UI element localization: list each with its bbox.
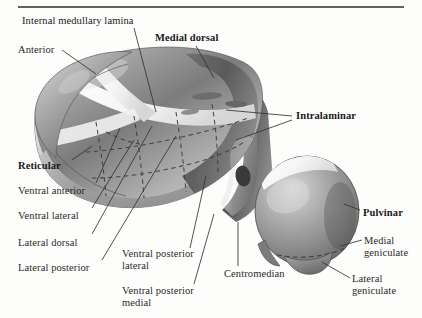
thalamus-figure: Internal medullary lamina Anterior Media… [0,0,422,318]
leader-ventral-posterior-medial [194,214,214,284]
label-lateral-dorsal: Lateral dorsal [18,237,77,249]
label-lateral-geniculate: Lateral geniculate [352,273,396,296]
label-reticular: Reticular [18,160,61,172]
label-anterior: Anterior [18,44,54,56]
label-ventral-posterior-lateral: Ventral posterior lateral [122,248,194,271]
label-ventral-posterior-medial: Ventral posterior medial [122,285,194,308]
label-intralaminar: Intralaminar [296,110,356,122]
leader-lateral-geniculate [322,262,350,278]
label-medial-dorsal: Medial dorsal [155,32,218,44]
label-internal-medullary-lamina: Internal medullary lamina [22,15,134,27]
label-pulvinar: Pulvinar [363,207,403,219]
label-centromedian: Centromedian [224,268,285,280]
label-medial-geniculate: Medial geniculate [364,235,408,258]
label-ventral-lateral: Ventral lateral [18,210,79,222]
label-lateral-posterior: Lateral posterior [18,262,89,274]
label-ventral-anterior: Ventral anterior [18,185,85,197]
